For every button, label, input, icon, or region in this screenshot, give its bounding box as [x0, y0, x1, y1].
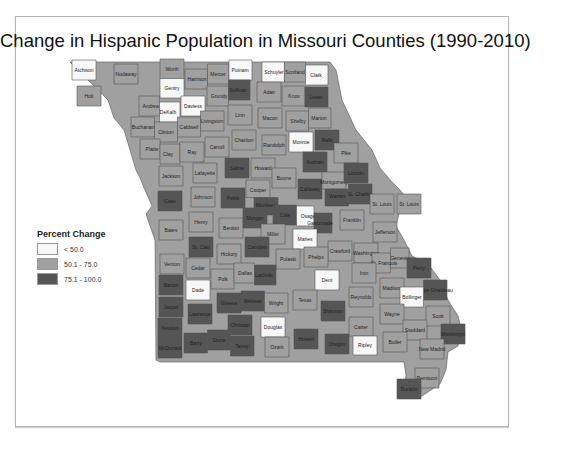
- county-audrain: Audrain: [303, 152, 327, 172]
- county-label: Barry: [190, 340, 202, 346]
- county-label: Scotland: [285, 69, 305, 75]
- county-label: Ripley: [358, 342, 372, 348]
- county-label: Mercer: [210, 71, 226, 77]
- county-butler: Butler: [383, 332, 407, 352]
- county-label: Lawrence: [189, 311, 211, 317]
- county-ripley: Ripley: [353, 336, 377, 355]
- county-macon: Macon: [258, 108, 282, 128]
- county-label: Howard: [254, 165, 271, 171]
- county-atchison: Atchison: [72, 60, 96, 80]
- county-label: Scott: [432, 313, 444, 319]
- county-marion: Marion: [309, 108, 332, 128]
- county-clark: Clark: [306, 65, 329, 85]
- county-hickory: Hickory: [217, 244, 241, 264]
- county-christian: Christian: [228, 315, 252, 335]
- county-johnson: Johnson: [191, 187, 215, 207]
- county-label: Bates: [165, 227, 178, 233]
- county-cole: Cole: [273, 205, 297, 225]
- county-jasper: Jasper: [159, 297, 183, 317]
- county-label: Wright: [269, 300, 284, 306]
- county-label: Buchanan: [132, 124, 155, 130]
- county-label: Hickory: [221, 251, 238, 257]
- county-benton: Benton: [219, 218, 243, 238]
- county-label: Clinton: [158, 129, 174, 135]
- county-vernon: Vernon: [160, 254, 184, 274]
- county-label: Caldwell: [180, 124, 199, 130]
- county-wright: Wright: [265, 293, 289, 313]
- county-label: Pike: [341, 150, 351, 156]
- county-maries: Maries: [293, 229, 317, 249]
- county-label: St. Clair: [192, 244, 210, 250]
- county-pike: Pike: [334, 143, 358, 163]
- county-label: Lewis: [310, 94, 323, 100]
- county-label: Morgan: [247, 215, 264, 221]
- county-label: McDonald: [159, 345, 182, 351]
- county-callaway: Callaway: [298, 179, 322, 199]
- county-platte: Platte: [140, 139, 160, 159]
- county-lafayette: Lafayette: [193, 163, 217, 183]
- county-taney: Taney: [231, 336, 255, 356]
- county-camden: Camden: [245, 237, 269, 257]
- county-label: Chariton: [235, 137, 254, 143]
- county-label: Jefferson: [375, 229, 396, 235]
- county-mississippi: Mississippi: [441, 324, 465, 344]
- county-label: Cass: [164, 198, 176, 204]
- county-label: Mississippi: [441, 331, 465, 337]
- legend-label-high: 75.1 - 100.0: [64, 276, 101, 283]
- county-label: Stone: [212, 337, 225, 343]
- county-label: St. Louis: [399, 201, 419, 207]
- county-label: Clay: [163, 151, 174, 157]
- county-dunklin: Dunklin: [397, 379, 421, 399]
- county-label: Sullivan: [229, 87, 247, 93]
- county-label: Dade: [192, 287, 204, 293]
- legend-swatch-high: [37, 273, 58, 285]
- county-mercer: Mercer: [208, 64, 230, 84]
- county-texas: Texas: [293, 290, 317, 310]
- county-lawrence: Lawrence: [188, 304, 212, 324]
- county-st-charles: St. Charles: [348, 184, 373, 204]
- county-grundy: Grundy: [207, 86, 229, 106]
- county-buchanan: Buchanan: [131, 117, 155, 137]
- county-jackson: Jackson: [159, 166, 183, 186]
- county-pulaski: Pulaski: [276, 249, 300, 269]
- county-label: Cooper: [250, 187, 267, 193]
- county-label: Grundy: [211, 93, 228, 99]
- county-reynolds: Reynolds: [349, 287, 373, 307]
- county-label: Newton: [162, 325, 179, 331]
- county-label: Daviess: [184, 103, 202, 109]
- county-label: Linn: [235, 112, 245, 118]
- county-label: Phelps: [308, 254, 324, 260]
- county-ozark: Ozark: [265, 337, 289, 357]
- county-newton: Newton: [158, 318, 182, 338]
- county-label: Monroe: [293, 139, 310, 145]
- county-label: Cedar: [191, 265, 205, 271]
- county-label: Ozark: [270, 344, 284, 350]
- county-label: Audrain: [306, 159, 323, 165]
- county-label: Benton: [223, 225, 239, 231]
- county-cass: Cass: [158, 191, 182, 211]
- county-st-clair: St. Clair: [189, 237, 213, 257]
- county-greene: Greene: [217, 293, 241, 313]
- county-label: Stoddard: [405, 327, 426, 333]
- county-label: Franklin: [343, 217, 361, 223]
- county-label: Adair: [263, 89, 275, 95]
- county-henry: Henry: [189, 212, 213, 232]
- county-dade: Dade: [186, 280, 210, 300]
- county-label: Carroll: [210, 144, 225, 150]
- county-polk: Polk: [211, 269, 234, 289]
- county-stone: Stone: [208, 330, 231, 350]
- county-label: Laclede: [255, 272, 273, 278]
- county-jefferson: Jefferson: [373, 222, 397, 242]
- county-label: Miller: [267, 231, 279, 237]
- county-label: Bollinger: [402, 294, 422, 300]
- legend-label-low: < 50.0: [64, 246, 84, 253]
- county-label: Henry: [194, 219, 208, 225]
- legend-item-mid: 50.1 - 75.0: [37, 257, 106, 271]
- county-label: Cole: [280, 212, 291, 218]
- county-mcdonald: McDonald: [158, 338, 182, 358]
- county-sullivan: Sullivan: [229, 80, 251, 100]
- county-scott: Scott: [426, 306, 450, 326]
- county-label: Taney: [235, 343, 249, 349]
- county-crawford: Crawford: [328, 241, 352, 261]
- county-label: Andrew: [143, 103, 160, 109]
